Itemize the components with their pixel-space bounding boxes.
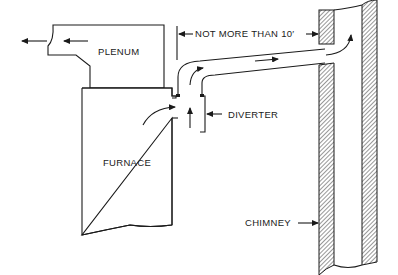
distance-dimension: NOT MORE THAN 10′ <box>177 26 318 60</box>
arrow-right-icon <box>255 59 278 61</box>
plenum-label: PLENUM <box>98 46 139 57</box>
plenum: PLENUM <box>48 25 164 88</box>
distance-label: NOT MORE THAN 10′ <box>195 28 294 39</box>
curved-arrow-up-right-icon <box>190 68 203 85</box>
chimney <box>319 0 377 275</box>
chimney-label: CHIMNEY <box>245 217 291 228</box>
furnace-label: FURNACE <box>103 157 151 168</box>
furnace-diagram: PLENUM FURNACE DIVERTER <box>0 0 398 275</box>
furnace: FURNACE <box>82 88 178 235</box>
diverter-label: DIVERTER <box>228 109 278 120</box>
